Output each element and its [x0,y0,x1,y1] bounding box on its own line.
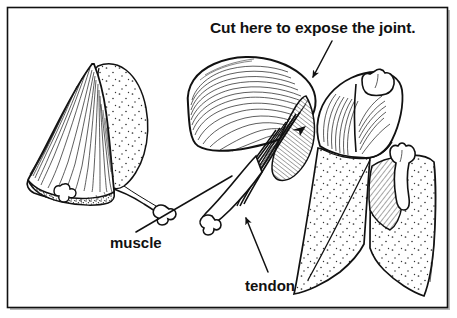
cut-here-callout-label: Cut here to expose the joint. [210,19,416,36]
figure-root: Cut here to expose the joint. muscle ten… [0,0,457,318]
bone-head-upper [362,69,394,95]
tendon-callout-label: tendon [245,277,295,294]
dissection-diagram: Cut here to expose the joint. muscle ten… [0,0,457,318]
muscle-callout-label: muscle [110,234,162,251]
